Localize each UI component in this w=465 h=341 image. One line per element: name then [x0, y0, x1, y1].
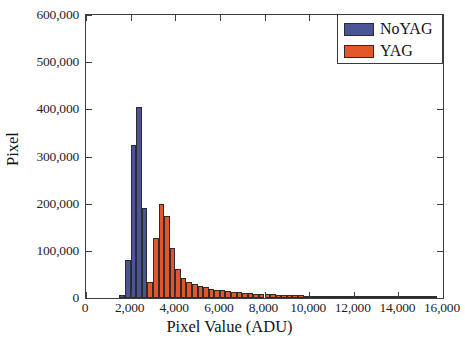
x-axis-tick: [220, 292, 221, 298]
x-axis-tick: [309, 15, 310, 21]
legend-label-noyag: NoYAG: [380, 21, 432, 37]
legend-entry-yag: YAG: [338, 40, 442, 62]
y-axis-tick: [86, 62, 92, 63]
histogram-bar: [421, 296, 432, 298]
x-axis-tick: [131, 292, 132, 298]
x-axis-tick: [443, 15, 444, 21]
y-axis-tick-label: 200,000: [0, 197, 79, 211]
histogram-bar: [365, 296, 376, 298]
legend-swatch-noyag: [344, 23, 374, 36]
histogram-bar: [331, 296, 342, 298]
x-axis-tick: [443, 292, 444, 298]
x-axis-title: Pixel Value (ADU): [0, 318, 459, 336]
y-axis-tick-label: 300,000: [0, 150, 79, 164]
y-axis-tick-label: 600,000: [0, 8, 79, 22]
y-axis-tick: [86, 251, 92, 252]
legend-swatch-yag: [344, 45, 374, 58]
y-axis-tick: [437, 204, 443, 205]
histogram-bar: [410, 296, 421, 298]
x-axis-tick: [265, 15, 266, 21]
chart-legend: NoYAG YAG: [337, 14, 443, 64]
x-axis-tick: [398, 292, 399, 298]
x-axis-tick: [354, 292, 355, 298]
legend-entry-noyag: NoYAG: [338, 18, 442, 40]
x-axis-tick: [220, 15, 221, 21]
x-axis-tick: [175, 15, 176, 21]
y-axis-tick: [86, 204, 92, 205]
y-axis-tick: [86, 298, 92, 299]
x-axis-tick: [86, 15, 87, 21]
y-axis-tick-label: 500,000: [0, 55, 79, 69]
x-axis-tick: [175, 292, 176, 298]
histogram-bar: [343, 296, 354, 298]
x-axis-tick: [86, 292, 87, 298]
x-axis-tick-label: 16,000: [412, 301, 465, 315]
plot-area: NoYAG YAG: [85, 14, 444, 299]
x-axis-tick: [131, 15, 132, 21]
histogram-bar: [354, 296, 365, 298]
x-axis-tick: [309, 292, 310, 298]
y-axis-tick: [86, 109, 92, 110]
y-axis-tick: [437, 109, 443, 110]
y-axis-tick-label: 100,000: [0, 244, 79, 258]
histogram-bar: [398, 296, 409, 298]
x-axis-tick: [265, 292, 266, 298]
y-axis-tick: [437, 298, 443, 299]
legend-label-yag: YAG: [380, 43, 413, 59]
y-axis-tick-label: 400,000: [0, 102, 79, 116]
histogram-bar: [387, 296, 398, 298]
y-axis-tick: [437, 251, 443, 252]
y-axis-tick: [86, 157, 92, 158]
y-axis-tick: [437, 157, 443, 158]
histogram-bar: [376, 296, 387, 298]
